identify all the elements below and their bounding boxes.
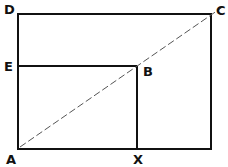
label-point-e: E bbox=[4, 60, 13, 73]
label-point-c: C bbox=[216, 4, 226, 17]
label-point-a: A bbox=[6, 153, 16, 166]
dashed-diagonal bbox=[20, 6, 224, 147]
label-point-b: B bbox=[143, 65, 153, 78]
label-point-x: X bbox=[133, 153, 143, 166]
label-point-d: D bbox=[4, 3, 15, 16]
diagram-canvas bbox=[0, 0, 228, 167]
